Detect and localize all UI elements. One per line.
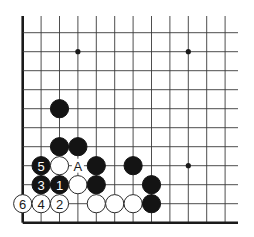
white-stone	[87, 195, 105, 213]
black-stone	[69, 138, 87, 156]
black-stone-icon	[69, 138, 87, 156]
black-stone	[142, 176, 160, 194]
black-stone	[50, 100, 68, 118]
black-stone: 3	[32, 176, 50, 194]
white-stone-icon	[50, 157, 68, 175]
white-stone	[124, 195, 142, 213]
black-stone	[87, 176, 105, 194]
white-stone: 4	[32, 195, 50, 213]
white-stone-icon	[106, 195, 124, 213]
move-number: 6	[19, 197, 26, 212]
black-stone	[87, 157, 105, 175]
black-stone-icon	[50, 100, 68, 118]
black-stone	[142, 195, 160, 213]
point-label-a: A	[74, 159, 83, 174]
white-stone-icon	[69, 176, 87, 194]
white-stone	[50, 157, 68, 175]
white-stone	[69, 176, 87, 194]
black-stone	[124, 157, 142, 175]
white-stone	[106, 195, 124, 213]
white-stone: 6	[14, 195, 32, 213]
point-labels: A	[72, 159, 84, 174]
stones-layer: 531642	[14, 100, 161, 213]
star-point-icon	[75, 49, 80, 54]
star-point-icon	[186, 163, 191, 168]
star-point-icon	[186, 49, 191, 54]
black-stone: 1	[50, 176, 68, 194]
black-stone-icon	[124, 157, 142, 175]
white-stone: 2	[50, 195, 68, 213]
move-number: 2	[56, 197, 63, 212]
move-number: 3	[37, 178, 44, 193]
black-stone	[50, 138, 68, 156]
black-stone-icon	[87, 176, 105, 194]
black-stone-icon	[142, 195, 160, 213]
move-number: 1	[56, 178, 63, 193]
go-board-diagram: 531642 A	[0, 0, 254, 237]
black-stone-icon	[142, 176, 160, 194]
white-stone-icon	[124, 195, 142, 213]
move-number: 4	[37, 197, 44, 212]
white-stone-icon	[87, 195, 105, 213]
black-stone-icon	[50, 138, 68, 156]
move-number: 5	[37, 159, 44, 174]
black-stone: 5	[32, 157, 50, 175]
black-stone-icon	[87, 157, 105, 175]
